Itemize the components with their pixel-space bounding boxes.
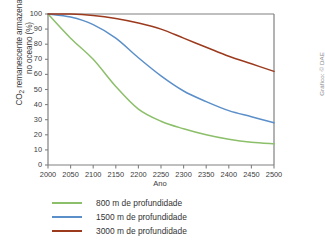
y-tick-label: 0 [20,160,42,169]
y-tick-label: 20 [20,130,42,139]
series-line-2 [48,14,274,71]
chart-legend: 800 m de profundidade1500 m de profundid… [52,196,282,238]
legend-item: 3000 m de profundidade [52,224,282,238]
legend-swatch [52,216,82,218]
legend-label: 800 m de profundidade [96,198,182,208]
chart-plot-area: CO2 remanescente armazenadono oceano (%)… [0,0,288,196]
y-tick-label: 100 [20,9,42,18]
chart-canvas [0,0,288,196]
y-tick-label: 30 [20,115,42,124]
legend-item: 800 m de profundidade [52,196,282,210]
y-tick-label: 40 [20,100,42,109]
legend-item: 1500 m de profundidade [52,210,282,224]
y-tick-label: 60 [20,69,42,78]
legend-label: 3000 m de profundidade [96,226,187,236]
y-tick-label: 50 [20,85,42,94]
y-tick-label: 10 [20,145,42,154]
series-line-1 [48,14,274,123]
series-line-0 [48,14,274,144]
y-tick-label: 80 [20,39,42,48]
x-axis-title: Ano [40,179,280,188]
y-tick-label: 90 [20,24,42,33]
legend-swatch [52,202,82,204]
chart-credit: Gráfico: © DAE [318,52,325,96]
legend-label: 1500 m de profundidade [96,212,187,222]
legend-swatch [52,230,82,232]
x-tick-label: 2500 [260,170,288,179]
y-tick-label: 70 [20,54,42,63]
